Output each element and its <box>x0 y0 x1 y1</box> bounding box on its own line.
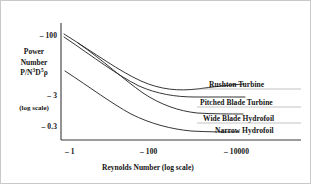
series-label-narrow-hydrofoil: Narrow Hydrofoil <box>215 126 274 135</box>
x-tick-label-1: – 1 <box>65 147 75 156</box>
y-tick-label-3: – 3 <box>13 91 57 100</box>
y-axis-log-scale-note: (log scale) <box>9 104 59 112</box>
series-label-rushton-turbine: Rushton Turbine <box>209 80 264 89</box>
y-tick-label-0-3: – 0.3 <box>13 122 57 131</box>
y-tick-label-100: – 100 <box>13 31 57 40</box>
figure-container: – 100 – 3 – 0.3 Power Number P/N3D5ρ (lo… <box>0 0 311 184</box>
y-axis-title: Power Number P/N3D5ρ <box>9 47 59 79</box>
y-axis-formula: P/N3D5ρ <box>9 68 59 79</box>
formula-numerator: P/N <box>20 68 32 77</box>
series-label-pitched-blade-turbine: Pitched Blade Turbine <box>200 98 273 107</box>
y-axis-title-line1: Power <box>9 47 59 58</box>
series-label-wide-blade-hydrofoil: Wide Blade Hydrofoil <box>203 114 274 123</box>
x-tick-label-10000: – 10000 <box>224 147 249 156</box>
formula-density-rho: ρ <box>44 68 48 77</box>
x-axis-title: Reynolds Number (log scale) <box>102 163 194 172</box>
x-tick-label-100: – 100 <box>140 147 157 156</box>
